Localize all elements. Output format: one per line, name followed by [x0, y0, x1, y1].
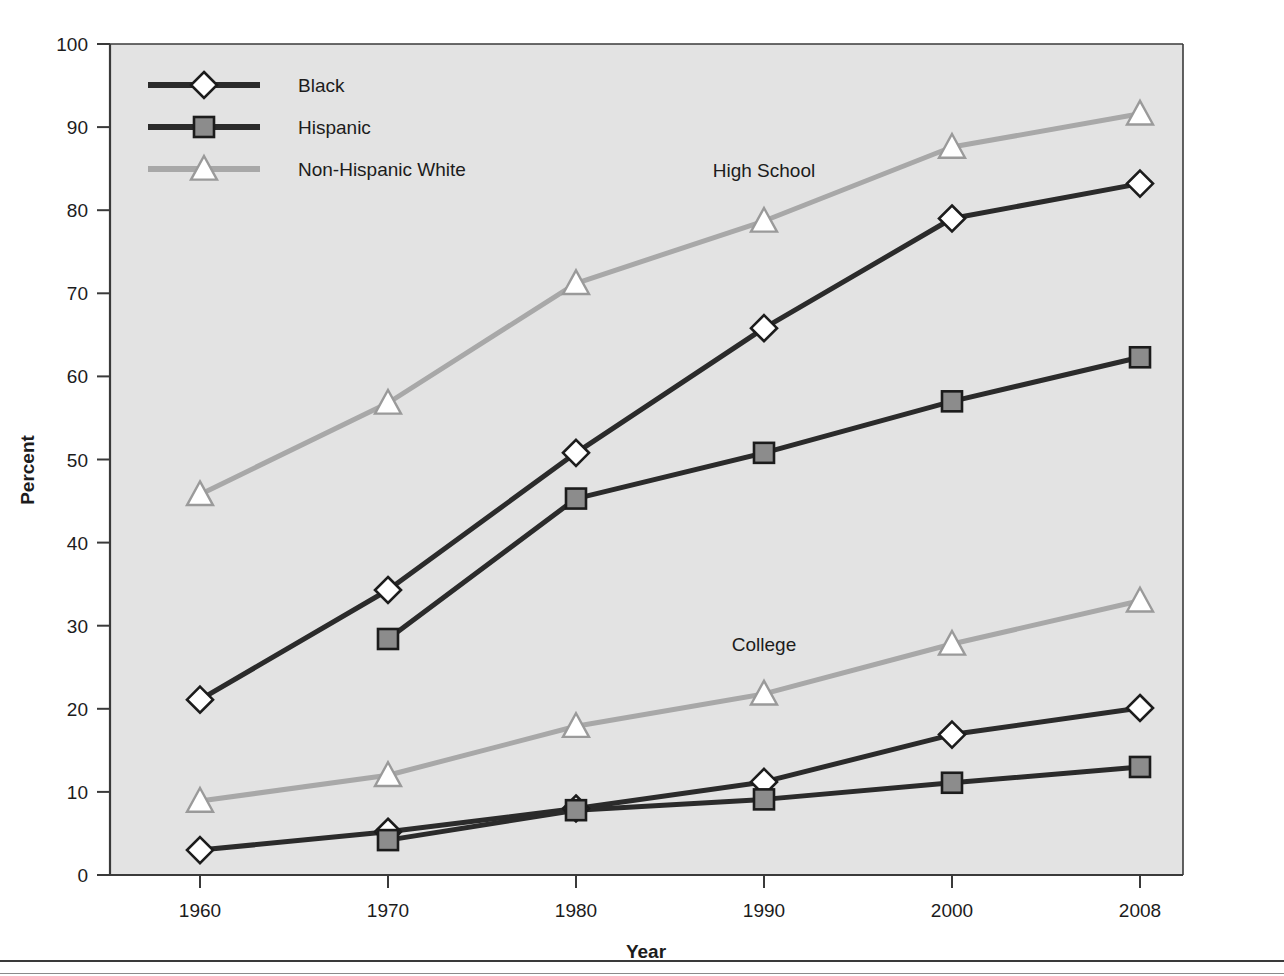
y-tick-label: 0: [77, 865, 88, 886]
y-tick-label: 40: [67, 533, 88, 554]
data-point-square: [754, 443, 774, 463]
y-tick-label: 10: [67, 782, 88, 803]
bottom-divider: [0, 960, 1284, 962]
data-point-square: [566, 800, 586, 820]
x-tick-label: 1970: [367, 900, 409, 921]
data-point-square: [566, 489, 586, 509]
x-tick-label: 1960: [179, 900, 221, 921]
data-point-square: [1130, 347, 1150, 367]
data-point-square: [942, 773, 962, 793]
data-point-square: [942, 391, 962, 411]
annotation-label: College: [732, 634, 796, 655]
line-chart: 0102030405060708090100 19601970198019902…: [0, 0, 1284, 976]
y-tick-label: 50: [67, 450, 88, 471]
y-axis-title: Percent: [17, 434, 38, 504]
figure-page: 0102030405060708090100 19601970198019902…: [0, 0, 1284, 976]
y-axis-ticks: 0102030405060708090100: [56, 34, 110, 886]
y-tick-label: 60: [67, 366, 88, 387]
legend-label: Non-Hispanic White: [298, 159, 466, 180]
legend-label: Hispanic: [298, 117, 371, 138]
bottom-divider-secondary: [0, 973, 1284, 974]
data-point-square: [1130, 757, 1150, 777]
data-point-square: [754, 789, 774, 809]
x-tick-label: 1980: [555, 900, 597, 921]
x-axis-ticks: 196019701980199020002008: [179, 875, 1161, 921]
data-point-square: [378, 830, 398, 850]
x-tick-label: 2008: [1119, 900, 1161, 921]
y-tick-label: 100: [56, 34, 88, 55]
x-axis-title: Year: [626, 941, 667, 962]
y-tick-label: 80: [67, 200, 88, 221]
data-point-square: [378, 629, 398, 649]
data-point-square: [194, 117, 214, 137]
x-tick-label: 1990: [743, 900, 785, 921]
y-tick-label: 20: [67, 699, 88, 720]
y-tick-label: 70: [67, 283, 88, 304]
y-tick-label: 90: [67, 117, 88, 138]
x-tick-label: 2000: [931, 900, 973, 921]
legend-label: Black: [298, 75, 345, 96]
y-tick-label: 30: [67, 616, 88, 637]
annotation-label: High School: [713, 160, 815, 181]
